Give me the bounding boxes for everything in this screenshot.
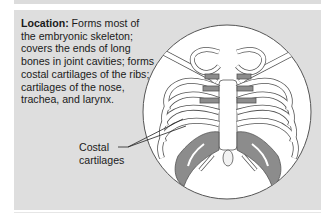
label-line-1: Costal (79, 141, 124, 154)
location-heading: Location: (21, 17, 69, 29)
location-description: Location: Forms most of the embryonic sk… (21, 17, 156, 106)
costal-cartilages-label: Costal cartilages (79, 141, 124, 166)
location-text: Forms most of the embryonic skeleton; co… (21, 17, 154, 105)
label-line-2: cartilages (79, 154, 124, 167)
